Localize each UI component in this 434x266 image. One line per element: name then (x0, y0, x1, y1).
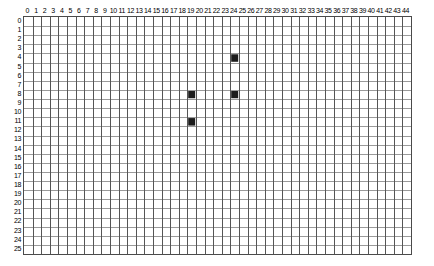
row-header-14[interactable]: 14 (6, 144, 21, 153)
column-header-27[interactable]: 27 (255, 6, 264, 15)
row-header-16[interactable]: 16 (6, 162, 21, 171)
column-header-21[interactable]: 21 (203, 6, 212, 15)
column-header-44[interactable]: 44 (401, 6, 410, 15)
row-header-11[interactable]: 11 (6, 116, 21, 125)
column-header-30[interactable]: 30 (281, 6, 290, 15)
row-header-23[interactable]: 23 (6, 226, 21, 235)
row-header-2[interactable]: 2 (6, 34, 21, 43)
column-header-11[interactable]: 11 (118, 6, 127, 15)
column-header-26[interactable]: 26 (246, 6, 255, 15)
row-header-3[interactable]: 3 (6, 43, 21, 52)
column-header-37[interactable]: 37 (341, 6, 350, 15)
column-header-0[interactable]: 0 (23, 6, 32, 15)
column-header-6[interactable]: 6 (75, 6, 84, 15)
row-header-15[interactable]: 15 (6, 153, 21, 162)
column-header-14[interactable]: 14 (143, 6, 152, 15)
row-header-13[interactable]: 13 (6, 134, 21, 143)
row-header-18[interactable]: 18 (6, 180, 21, 189)
row-header-column: 0123456789101112131415161718192021222324… (6, 16, 21, 253)
column-header-16[interactable]: 16 (161, 6, 170, 15)
column-header-31[interactable]: 31 (289, 6, 298, 15)
row-header-7[interactable]: 7 (6, 80, 21, 89)
column-header-22[interactable]: 22 (212, 6, 221, 15)
column-header-2[interactable]: 2 (40, 6, 49, 15)
column-header-28[interactable]: 28 (264, 6, 273, 15)
row-header-21[interactable]: 21 (6, 207, 21, 216)
column-header-12[interactable]: 12 (126, 6, 135, 15)
column-header-38[interactable]: 38 (350, 6, 359, 15)
column-header-7[interactable]: 7 (83, 6, 92, 15)
column-header-36[interactable]: 36 (332, 6, 341, 15)
column-header-9[interactable]: 9 (100, 6, 109, 15)
row-header-25[interactable]: 25 (6, 244, 21, 253)
column-header-4[interactable]: 4 (57, 6, 66, 15)
row-header-4[interactable]: 4 (6, 52, 21, 61)
row-header-8[interactable]: 8 (6, 89, 21, 98)
column-header-40[interactable]: 40 (367, 6, 376, 15)
column-header-row: 0123456789101112131415161718192021222324… (23, 6, 410, 15)
column-header-24[interactable]: 24 (229, 6, 238, 15)
row-header-9[interactable]: 9 (6, 98, 21, 107)
row-header-6[interactable]: 6 (6, 71, 21, 80)
column-header-18[interactable]: 18 (178, 6, 187, 15)
column-header-5[interactable]: 5 (66, 6, 75, 15)
column-header-19[interactable]: 19 (186, 6, 195, 15)
column-header-10[interactable]: 10 (109, 6, 118, 15)
filled-cell-24-4[interactable] (231, 54, 238, 62)
column-header-17[interactable]: 17 (169, 6, 178, 15)
grid-canvas[interactable] (23, 16, 412, 255)
column-header-13[interactable]: 13 (135, 6, 144, 15)
column-header-20[interactable]: 20 (195, 6, 204, 15)
row-header-5[interactable]: 5 (6, 62, 21, 71)
column-header-25[interactable]: 25 (238, 6, 247, 15)
column-header-33[interactable]: 33 (307, 6, 316, 15)
grid-svg (24, 17, 411, 254)
column-header-32[interactable]: 32 (298, 6, 307, 15)
column-header-34[interactable]: 34 (315, 6, 324, 15)
column-header-39[interactable]: 39 (358, 6, 367, 15)
row-header-0[interactable]: 0 (6, 16, 21, 25)
column-header-29[interactable]: 29 (272, 6, 281, 15)
row-header-20[interactable]: 20 (6, 198, 21, 207)
column-header-42[interactable]: 42 (384, 6, 393, 15)
row-header-22[interactable]: 22 (6, 216, 21, 225)
column-header-15[interactable]: 15 (152, 6, 161, 15)
row-header-1[interactable]: 1 (6, 25, 21, 34)
row-header-12[interactable]: 12 (6, 125, 21, 134)
column-header-23[interactable]: 23 (221, 6, 230, 15)
filled-cell-24-8[interactable] (231, 91, 238, 99)
row-header-10[interactable]: 10 (6, 107, 21, 116)
row-header-24[interactable]: 24 (6, 235, 21, 244)
column-header-41[interactable]: 41 (375, 6, 384, 15)
column-header-35[interactable]: 35 (324, 6, 333, 15)
column-header-8[interactable]: 8 (92, 6, 101, 15)
occupancy-grid-widget: 0123456789101112131415161718192021222324… (0, 0, 434, 266)
column-header-1[interactable]: 1 (32, 6, 41, 15)
column-header-43[interactable]: 43 (393, 6, 402, 15)
column-header-3[interactable]: 3 (49, 6, 58, 15)
filled-cell-19-11[interactable] (188, 118, 195, 126)
filled-cell-19-8[interactable] (188, 91, 195, 99)
row-header-17[interactable]: 17 (6, 171, 21, 180)
row-header-19[interactable]: 19 (6, 189, 21, 198)
